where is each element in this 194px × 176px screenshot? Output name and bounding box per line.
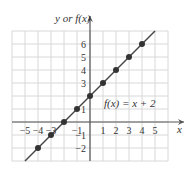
data-point [61, 119, 67, 125]
svg-text:4: 4 [140, 125, 145, 136]
svg-text:4: 4 [81, 65, 86, 76]
data-point [139, 41, 145, 47]
data-point [74, 106, 80, 112]
svg-text:−4: −4 [33, 125, 44, 136]
svg-text:−1: −1 [75, 130, 86, 141]
svg-text:1: 1 [81, 104, 86, 115]
data-point [100, 80, 106, 86]
function-annotation: f(x) = x + 2 [104, 97, 156, 110]
y-axis-label: y or f(x) [54, 12, 91, 25]
function-graph: −5−4−3−11234565431−1−2 y or f(x) x f(x) … [0, 0, 194, 176]
data-point [48, 132, 54, 138]
svg-text:5: 5 [153, 125, 158, 136]
svg-text:1: 1 [101, 125, 106, 136]
svg-text:6: 6 [81, 39, 86, 50]
svg-text:3: 3 [127, 125, 132, 136]
svg-text:−2: −2 [75, 143, 86, 154]
data-point [87, 93, 93, 99]
x-axis-label: x [176, 123, 182, 135]
svg-text:−5: −5 [20, 125, 31, 136]
svg-text:2: 2 [114, 125, 119, 136]
svg-text:5: 5 [81, 52, 86, 63]
data-point [113, 67, 119, 73]
data-point [126, 54, 132, 60]
data-point [35, 145, 41, 151]
svg-text:3: 3 [81, 78, 86, 89]
